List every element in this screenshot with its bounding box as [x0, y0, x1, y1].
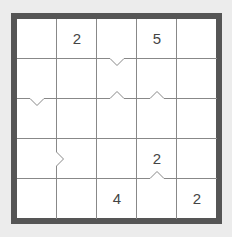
grid-cell-r3-c2[interactable]	[97, 139, 137, 179]
grid-cell-r1-c3[interactable]	[137, 59, 177, 99]
grid-cell-r3-c0[interactable]	[17, 139, 57, 179]
puzzle-board: 25242	[11, 13, 222, 224]
grid-cell-r1-c0[interactable]	[17, 59, 57, 99]
grid-cell-r2-c1[interactable]	[57, 99, 97, 139]
grid-cell-r3-c4[interactable]	[177, 139, 217, 179]
grid-cell-r4-c3[interactable]	[137, 179, 177, 219]
clue-number: 4	[97, 179, 137, 219]
grid-cell-r0-c2[interactable]	[97, 19, 137, 59]
clue-number: 2	[57, 19, 97, 59]
grid-cell-r1-c1[interactable]	[57, 59, 97, 99]
grid-cell-r4-c0[interactable]	[17, 179, 57, 219]
grid-cell-r2-c2[interactable]	[97, 99, 137, 139]
clue-number: 2	[137, 139, 177, 179]
grid-cell-r0-c4[interactable]	[177, 19, 217, 59]
grid-cell-r2-c4[interactable]	[177, 99, 217, 139]
clue-number: 2	[177, 179, 217, 219]
clue-number: 5	[137, 19, 177, 59]
grid-cell-r4-c1[interactable]	[57, 179, 97, 219]
grid-cell-r0-c0[interactable]	[17, 19, 57, 59]
grid-cell-r1-c4[interactable]	[177, 59, 217, 99]
grid-cell-r2-c3[interactable]	[137, 99, 177, 139]
